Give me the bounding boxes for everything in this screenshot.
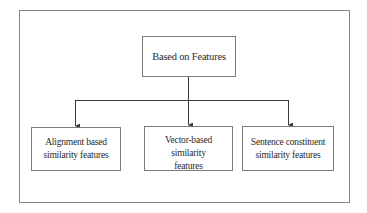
root-node: Based on Features	[142, 36, 236, 77]
child-node-vector: Vector-based similarity features	[144, 126, 233, 171]
child-node-label-line1: Alignment based	[43, 136, 108, 149]
child-node-sentence-constituent: Sentence constituent similarity features	[242, 126, 334, 171]
child-node-label-line1: Sentence constituent	[251, 136, 325, 149]
child-node-label-line1: Vector-based similarity	[149, 134, 228, 160]
child-node-label-line2: features	[149, 160, 228, 173]
child-node-label-line2: similarity features	[251, 149, 325, 162]
root-node-label: Based on Features	[152, 50, 226, 63]
child-node-label-line2: similarity features	[43, 149, 108, 162]
child-node-alignment: Alignment based similarity features	[31, 127, 121, 171]
